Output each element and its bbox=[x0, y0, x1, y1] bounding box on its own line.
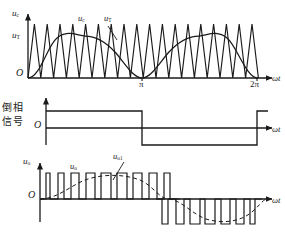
waveform-canvas bbox=[0, 0, 285, 232]
u-o1-leader-line bbox=[113, 162, 124, 180]
curve-label-uc: uc bbox=[78, 14, 85, 23]
spwm-negative-pulses bbox=[156, 199, 262, 224]
panel-carrier-modulation bbox=[28, 14, 272, 81]
curve-label-uo: uo bbox=[70, 162, 77, 171]
carrier-triangle-wave bbox=[28, 24, 258, 78]
panel1-y-axis-label-uc: uc bbox=[12, 9, 19, 19]
panel2-x-axis-label: ωt bbox=[272, 125, 280, 134]
curve-label-uo1: uo1 bbox=[113, 152, 123, 161]
panel1-x-axis-label: ωt bbox=[272, 74, 280, 83]
panel1-y-axis-label-ut: uT bbox=[12, 31, 20, 41]
modulating-sine-wave bbox=[28, 33, 258, 78]
panel1-xtick-pi: π bbox=[139, 80, 144, 89]
curve-label-ut: uT bbox=[104, 14, 111, 23]
panel3-y-axis-label: uo bbox=[23, 157, 30, 167]
panel-output-voltage bbox=[40, 162, 272, 224]
panel1-origin-label: O bbox=[16, 68, 23, 78]
spwm-waveform-figure: uc uT O uc uT π 2π ωt 倒相 信号 O ωt uo O uo… bbox=[0, 0, 285, 232]
panel2-caption-line2: 信号 bbox=[2, 117, 23, 127]
panel2-caption-line1: 倒相 bbox=[2, 103, 23, 113]
panel1-xtick-2pi: 2π bbox=[250, 80, 259, 89]
panel-inversion-signal bbox=[46, 98, 272, 145]
panel3-x-axis-label: ωt bbox=[272, 196, 280, 205]
panel3-origin-label: O bbox=[28, 190, 35, 200]
panel2-origin-label: O bbox=[34, 120, 41, 130]
